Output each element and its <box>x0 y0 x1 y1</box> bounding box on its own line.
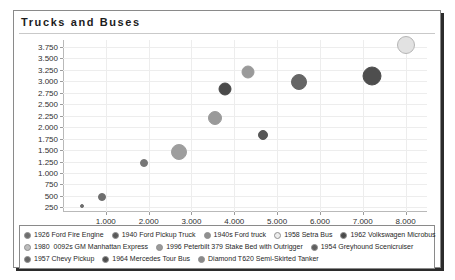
x-axis-tick-mark <box>320 212 321 215</box>
bubble-data-point[interactable] <box>363 66 382 85</box>
title-divider <box>19 33 435 34</box>
vertical-gridline <box>277 40 278 212</box>
legend-item[interactable]: 1940s Ford truck <box>204 230 267 240</box>
legend-item-label: 19800092s GM Manhattan Express <box>34 242 148 252</box>
vertical-gridline <box>320 40 321 212</box>
legend-item[interactable]: 1962 Volkswagen Microbus <box>340 230 435 240</box>
y-axis-tick-label: 500 <box>45 191 58 200</box>
horizontal-gridline <box>63 47 427 48</box>
plot-area: 2505007501.0001.2501.5001.7502.0002.2502… <box>63 40 427 212</box>
chart-legend: 1926 Ford Fire Engine1940 Ford Pickup Tr… <box>19 225 435 269</box>
bubble-data-point[interactable] <box>98 193 106 201</box>
y-axis-tick-mark <box>60 127 63 128</box>
legend-item-label: 1954 Greyhound Scenicruiser <box>321 242 414 252</box>
bubble-data-point[interactable] <box>219 82 232 95</box>
legend-swatch-icon <box>204 232 211 239</box>
legend-item-label: 1940s Ford truck <box>214 230 267 240</box>
bubble-data-point[interactable] <box>242 65 255 78</box>
horizontal-gridline <box>63 207 427 208</box>
vertical-gridline <box>234 40 235 212</box>
x-axis-tick-mark <box>363 212 364 215</box>
y-axis-tick-label: 3.250 <box>38 65 58 74</box>
y-axis-tick-label: 2.750 <box>38 88 58 97</box>
legend-item[interactable]: 1957 Chevy Pickup <box>24 254 94 264</box>
y-axis-tick-label: 3.000 <box>38 77 58 86</box>
legend-swatch-icon <box>274 232 281 239</box>
y-axis-tick-mark <box>60 47 63 48</box>
legend-item[interactable]: 1996 Peterbilt 379 Stake Bed with Outrig… <box>156 242 303 252</box>
x-axis-tick-mark <box>277 212 278 215</box>
vertical-gridline <box>406 40 407 212</box>
y-axis-tick-mark <box>60 81 63 82</box>
horizontal-gridline <box>63 58 427 59</box>
legend-item[interactable]: 1958 Setra Bus <box>274 230 332 240</box>
legend-item-label: Diamond T620 Semi-Skirted Tanker <box>208 254 319 264</box>
chart-title: Trucks and Buses <box>21 16 141 28</box>
legend-item[interactable]: 1964 Mercedes Tour Bus <box>102 254 190 264</box>
x-axis-tick-mark <box>191 212 192 215</box>
legend-row: 19800092s GM Manhattan Express1996 Pete… <box>24 241 430 253</box>
legend-item-label: 1957 Chevy Pickup <box>34 254 94 264</box>
legend-item-label: 1926 Ford Fire Engine <box>34 230 104 240</box>
y-axis-tick-mark <box>60 139 63 140</box>
legend-item[interactable]: 19800092s GM Manhattan Express <box>24 242 148 252</box>
x-axis-tick-mark <box>149 212 150 215</box>
y-axis-tick-label: 1.250 <box>38 157 58 166</box>
horizontal-gridline <box>63 173 427 174</box>
y-axis-tick-mark <box>60 150 63 151</box>
legend-item-label: 1964 Mercedes Tour Bus <box>112 254 190 264</box>
horizontal-gridline <box>63 162 427 163</box>
legend-item[interactable]: 1926 Ford Fire Engine <box>24 230 104 240</box>
bubble-data-point[interactable] <box>208 111 222 125</box>
bubble-data-point[interactable] <box>258 130 268 140</box>
y-axis-tick-label: 2.500 <box>38 100 58 109</box>
horizontal-gridline <box>63 150 427 151</box>
legend-swatch-icon <box>311 244 318 251</box>
legend-swatch-icon <box>24 232 31 239</box>
vertical-gridline <box>106 40 107 212</box>
horizontal-gridline <box>63 104 427 105</box>
legend-row: 1926 Ford Fire Engine1940 Ford Pickup Tr… <box>24 229 430 241</box>
y-axis-tick-label: 2.250 <box>38 111 58 120</box>
horizontal-gridline <box>63 196 427 197</box>
legend-item-label: 1996 Peterbilt 379 Stake Bed with Outrig… <box>166 242 303 252</box>
legend-item-label: 1940 Ford Pickup Truck <box>122 230 196 240</box>
y-axis-tick-label: 750 <box>45 180 58 189</box>
y-axis-tick-mark <box>60 173 63 174</box>
bubble-data-point[interactable] <box>171 144 187 160</box>
y-axis-tick-mark <box>60 184 63 185</box>
y-axis-tick-label: 250 <box>45 203 58 212</box>
y-axis-tick-mark <box>60 104 63 105</box>
y-axis-tick-mark <box>60 116 63 117</box>
x-axis-tick-mark <box>234 212 235 215</box>
y-axis-tick-mark <box>60 196 63 197</box>
y-axis-tick-label: 3.750 <box>38 42 58 51</box>
y-axis-tick-mark <box>60 70 63 71</box>
legend-item[interactable]: 1954 Greyhound Scenicruiser <box>311 242 414 252</box>
horizontal-gridline <box>63 184 427 185</box>
vertical-gridline <box>149 40 150 212</box>
bubble-data-point[interactable] <box>140 159 148 167</box>
y-axis-tick-mark <box>60 93 63 94</box>
legend-item-label: 1958 Setra Bus <box>284 230 332 240</box>
bubble-data-point[interactable] <box>80 204 84 208</box>
bubble-data-point[interactable] <box>397 36 415 54</box>
legend-item[interactable]: Diamond T620 Semi-Skirted Tanker <box>198 254 319 264</box>
y-axis-tick-label: 1.500 <box>38 146 58 155</box>
bubble-data-point[interactable] <box>291 74 307 90</box>
legend-swatch-icon <box>340 232 347 239</box>
x-axis-tick-mark <box>406 212 407 215</box>
y-axis-tick-mark <box>60 162 63 163</box>
legend-swatch-icon <box>156 244 163 251</box>
legend-item-label: 1962 Volkswagen Microbus <box>350 230 435 240</box>
horizontal-gridline <box>63 127 427 128</box>
legend-swatch-icon <box>198 256 205 263</box>
legend-swatch-icon <box>112 232 119 239</box>
y-axis-tick-mark <box>60 58 63 59</box>
horizontal-gridline <box>63 93 427 94</box>
vertical-gridline <box>363 40 364 212</box>
x-axis-tick-mark <box>106 212 107 215</box>
y-axis-tick-mark <box>60 207 63 208</box>
legend-row: 1957 Chevy Pickup1964 Mercedes Tour BusD… <box>24 253 430 265</box>
legend-item[interactable]: 1940 Ford Pickup Truck <box>112 230 196 240</box>
